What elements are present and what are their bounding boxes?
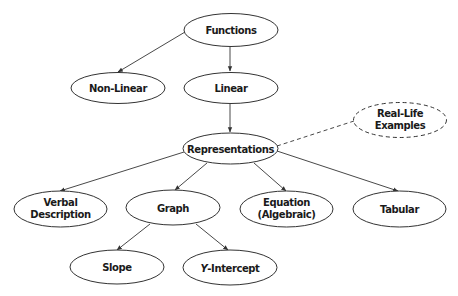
node-label: Tabular [380, 204, 419, 215]
node-label-line1: Equation [263, 197, 310, 208]
edge-graph-yintercept [196, 224, 228, 250]
node-label: Representations [187, 144, 274, 155]
node-label-line2: Description [30, 209, 91, 220]
node-label: Graph [157, 203, 189, 214]
node-label-line2: (Algebraic) [257, 209, 315, 220]
edge-representations-graph [175, 163, 207, 190]
node-non-linear: Non-Linear [71, 73, 165, 104]
node-equation-algebraic: Equation (Algebraic) [240, 191, 333, 227]
edge-graph-slope [117, 224, 150, 250]
node-label: Functions [205, 25, 256, 36]
node-label: Non-Linear [89, 83, 147, 94]
node-label-line2: Examples [375, 120, 426, 131]
concept-map: Functions Non-Linear Linear Real-Life Ex… [0, 0, 458, 296]
node-y-intercept: Y-Intercept [183, 250, 277, 285]
node-real-life-examples: Real-Life Examples [354, 103, 447, 138]
intercept-text: -Intercept [207, 263, 260, 274]
node-representations: Representations [183, 133, 278, 164]
node-functions: Functions [184, 14, 278, 47]
node-label: Slope [102, 262, 132, 273]
edge-representations-equation [254, 163, 286, 191]
node-linear: Linear [184, 73, 278, 104]
edge-representations-verbal [60, 152, 184, 191]
node-label-line1: Verbal [44, 197, 78, 208]
edge-representations-reallife [277, 121, 354, 146]
node-label-line1: Real-Life [377, 108, 424, 119]
node-label: Y-Intercept [201, 263, 261, 274]
node-verbal-description: Verbal Description [14, 191, 107, 227]
node-slope: Slope [70, 250, 164, 284]
node-graph: Graph [126, 190, 220, 225]
node-label: Linear [215, 83, 248, 94]
edge-representations-tabular [277, 151, 398, 191]
node-tabular: Tabular [353, 191, 446, 227]
edge-functions-nonlinear [118, 32, 185, 72]
